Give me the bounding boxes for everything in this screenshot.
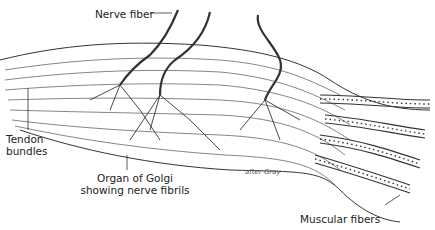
tendon-bundles-label-line2: bundles <box>6 145 48 157</box>
credit-text: after Gray <box>245 168 281 176</box>
tendon-bundles-label-line1: Tendon <box>6 133 48 145</box>
nerve-fiber-label: Nerve fiber <box>95 8 154 20</box>
golgi-tendon-organ-illustration <box>0 0 435 230</box>
tendon-bundles-label: Tendon bundles <box>6 133 48 157</box>
organ-label-line2: showing nerve fibrils <box>80 184 190 196</box>
organ-label-line1: Organ of Golgi <box>80 172 190 184</box>
muscular-fibers-label: Muscular fibers <box>300 213 380 225</box>
organ-of-golgi-label: Organ of Golgi showing nerve fibrils <box>80 172 190 196</box>
